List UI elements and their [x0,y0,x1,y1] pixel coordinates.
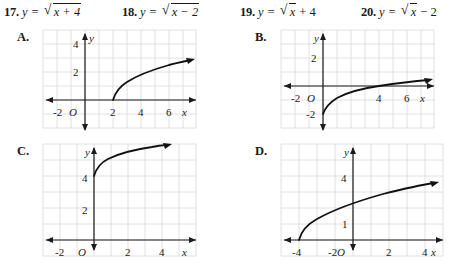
problem-18-equals: = [150,5,157,19]
graph-d-xtick--2: -2 [328,246,337,258]
problem-18-lhs: y [140,5,146,19]
axis-arrows [46,147,196,251]
graph-b-origin-label: O [307,92,315,104]
graph-b-letter: B. [255,30,266,45]
graph-a-ytick-2: 2 [73,66,79,78]
graph-c-ytick-4: 4 [82,172,88,184]
problem-20-radicand: x [410,3,418,20]
problem-17-number: 17. [4,5,19,19]
graph-c-origin-label: O [78,246,86,258]
graph-c-xtick-4: 4 [159,246,165,258]
axes [46,148,196,250]
curve-arrow-icon [163,143,172,149]
graph-b-ytick-2: 2 [311,52,317,64]
graph-d-xtick--4: -4 [292,246,302,258]
graph-a-yaxis-label: y [88,32,94,44]
problem-20: 20.y=√x− 2 [361,3,437,21]
graph-c-letter: C. [17,144,29,159]
radical-sign-icon: √ [280,2,288,18]
problem-19-radical: √x [280,3,297,21]
graph-d-plot: -4 -2 2 4 1 4 O x y [238,140,475,277]
problem-17-radical: √x + 4 [44,3,81,21]
grid-lines [43,144,196,256]
grid-lines [281,30,434,128]
graph-d-xaxis-label: x [430,246,436,258]
problem-19: 19.y=√x+ 4 [240,3,316,21]
graph-a-origin-label: O [69,106,77,118]
graph-panel-a: A. [0,28,237,136]
graph-c-ytick-2: 2 [82,204,88,216]
graph-a-xtick-6: 6 [166,106,172,118]
graph-c-yaxis-label: y [84,146,90,158]
graph-panel-d: D. [238,140,475,277]
problem-18: 18.y=√x − 2 [122,3,202,21]
graph-panel-b: B. [238,28,475,136]
radical-sign-icon: √ [44,2,52,18]
graph-c-xtick-2: 2 [125,246,131,258]
graph-d-yaxis-label: y [343,146,349,158]
problem-20-tail: − 2 [420,5,436,19]
graph-a-ytick-4: 4 [73,38,79,50]
curve-sqrt-x-plus4-inside [299,183,434,240]
problem-18-number: 18. [122,5,137,19]
problem-19-lhs: y [258,5,264,19]
graph-d-ytick-1: 1 [342,218,348,230]
radical-sign-icon: √ [162,2,170,18]
problem-18-radical: √x − 2 [162,3,199,21]
graph-b-ytick--2: -2 [306,108,315,120]
curve-arrow-icon [430,181,439,187]
graph-a-xaxis-label: x [181,106,187,118]
graph-a-xtick-4: 4 [138,106,144,118]
radical-sign-icon: √ [401,2,409,18]
curve-arrow-icon [424,78,433,84]
problem-19-radicand: x [289,3,297,20]
graph-a-xtick--2: -2 [53,106,62,118]
graph-b-yaxis-label: y [313,32,319,44]
graph-d-xtick-2: 2 [386,246,392,258]
graph-b-xaxis-label: x [419,92,425,104]
graph-b-xtick-4: 4 [376,92,382,104]
graph-a-plot: -2 2 4 6 2 4 O x y [0,28,237,136]
graph-c-xaxis-label: x [181,246,187,258]
graph-b-xtick-6: 6 [404,92,410,104]
graph-d-ytick-4: 4 [341,172,347,184]
problem-20-equals: = [389,5,396,19]
curve-sqrt-x-plus-4 [94,145,167,176]
curve-arrow-icon [186,58,195,64]
graph-d-xtick-4: 4 [422,246,428,258]
problem-20-lhs: y [379,5,385,19]
problem-19-number: 19. [240,5,255,19]
graph-b-xtick--2: -2 [291,92,300,104]
graph-panel-c: C. [0,140,237,277]
graph-c-xtick--2: -2 [55,246,64,258]
graph-a-xtick-2: 2 [110,106,116,118]
graph-a-letter: A. [17,30,29,45]
problem-17-radicand: x + 4 [53,3,81,20]
graph-d-origin-label: O [337,246,345,258]
grid-lines [43,30,196,128]
problem-20-radical: √x [401,3,418,21]
problem-list: 17.y=√x + 4 18.y=√x − 2 19.y=√x+ 4 20.y=… [0,0,475,26]
problem-19-tail: + 4 [299,5,315,19]
problem-17-lhs: y [22,5,28,19]
problem-17: 17.y=√x + 4 [4,3,84,21]
problem-19-equals: = [268,5,275,19]
graph-d-letter: D. [255,144,267,159]
problem-17-equals: = [32,5,39,19]
graph-b-plot: -2 4 6 2 -2 O x y [238,28,475,136]
curve-sqrt-x-minus-2 [113,60,191,100]
graph-c-plot: -2 2 4 2 4 O x y [0,140,237,277]
problem-20-number: 20. [361,5,376,19]
problem-18-radicand: x − 2 [171,3,199,20]
